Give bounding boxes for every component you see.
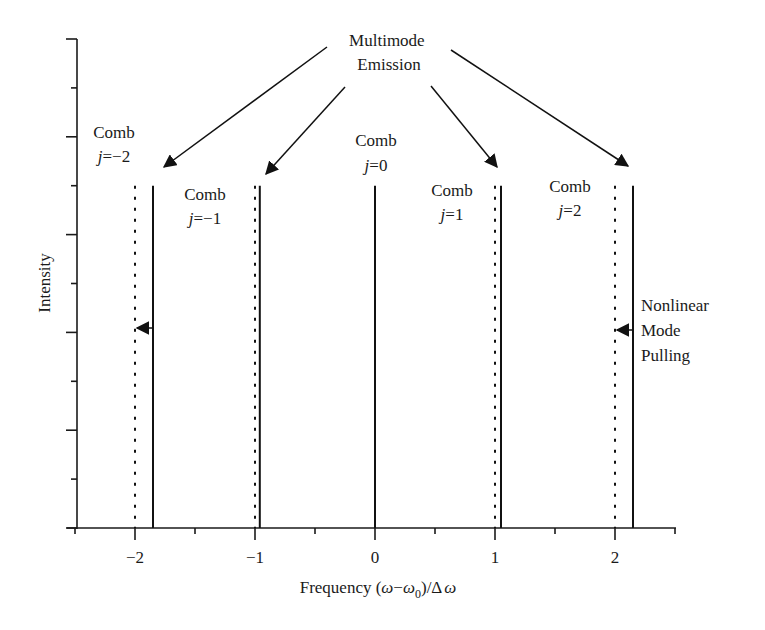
emission-arrow-1: [164, 47, 327, 167]
svg-text:j=2: j=2: [557, 201, 582, 220]
comb-label-m2: Comb j=−2: [93, 123, 135, 166]
comb-label-1: Comb j=1: [431, 181, 473, 224]
y-axis-label: Intensity: [35, 253, 54, 313]
spectral-lines: [135, 186, 633, 528]
mode-pulling-label: Nonlinear Mode Pulling: [641, 296, 713, 365]
svg-text:Comb: Comb: [184, 185, 226, 204]
x-tick-label: 0: [371, 548, 380, 567]
svg-text:Comb: Comb: [549, 177, 591, 196]
emission-arrow-3: [431, 86, 497, 167]
svg-text:Comb: Comb: [431, 181, 473, 200]
comb-label-m1: Comb j=−1: [184, 185, 226, 228]
x-tick-labels: −2−1012: [126, 548, 619, 567]
x-tick-label: −2: [126, 548, 144, 567]
svg-text:j=−1: j=−1: [187, 209, 221, 228]
x-ticks: [75, 528, 675, 540]
x-tick-label: 1: [491, 548, 500, 567]
x-axis-label: Frequency (ω−ω0)/Δω: [300, 578, 457, 601]
svg-text:j=−2: j=−2: [96, 147, 130, 166]
comb-label-0: Comb j=0: [355, 131, 397, 175]
svg-text:Comb: Comb: [93, 123, 135, 142]
svg-text:Comb: Comb: [355, 131, 397, 150]
x-tick-label: 2: [611, 548, 620, 567]
emission-arrow-2: [266, 87, 345, 174]
mode-pulling-diagram: −2−1012 Intensity Frequency (ω−ω0)/Δω Mu…: [0, 0, 765, 630]
multimode-emission-label: Multimode Emission: [349, 31, 429, 74]
comb-label-2: Comb j=2: [549, 177, 591, 220]
emission-arrow-4: [451, 50, 628, 166]
y-ticks: [66, 39, 77, 528]
svg-text:j=0: j=0: [363, 156, 388, 175]
svg-text:j=1: j=1: [439, 205, 464, 224]
x-tick-label: −1: [246, 548, 264, 567]
